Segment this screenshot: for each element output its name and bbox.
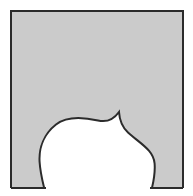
geometric-diagram-svg — [0, 0, 193, 196]
figure-root — [0, 0, 193, 196]
